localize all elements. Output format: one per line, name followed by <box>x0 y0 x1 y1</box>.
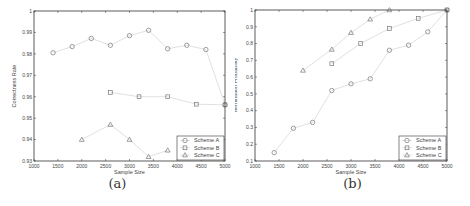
y-tick-label: 0.1 <box>246 158 253 164</box>
legend-label: Scheme C <box>194 152 220 158</box>
y-tick-label: 0.6 <box>246 74 253 80</box>
x-tick-label: 3500 <box>369 163 380 169</box>
x-axis-label: Sample Size <box>114 169 145 175</box>
y-axis-label: Correctness Rate <box>11 65 17 108</box>
series-line <box>303 10 389 70</box>
series-line <box>82 125 168 157</box>
legend: Scheme AScheme BScheme C <box>399 136 446 160</box>
series-scheme-c <box>301 8 392 73</box>
y-tick-label: 0.98 <box>22 51 32 57</box>
x-tick-label: 2500 <box>321 163 332 169</box>
y-tick-label: 0.97 <box>22 72 32 78</box>
termination-probability-chart: 1000150020002500300035004000450050000.10… <box>235 0 470 176</box>
legend-label: Scheme C <box>416 152 442 158</box>
series-line <box>53 30 225 105</box>
x-tick-label: 1500 <box>52 163 63 169</box>
y-tick-label: 0.9 <box>246 24 253 30</box>
y-axis-label: Termination Probability <box>235 57 238 113</box>
caption-a: (a) <box>0 176 235 191</box>
y-tick-label: 0.95 <box>22 115 32 121</box>
series-line <box>274 10 447 153</box>
legend: Scheme AScheme BScheme C <box>177 136 224 160</box>
x-tick-label: 4000 <box>393 163 404 169</box>
y-tick-label: 0.96 <box>22 94 32 100</box>
x-axis-label: Sample Size <box>336 169 367 175</box>
y-tick-label: 0.2 <box>246 141 253 147</box>
chart-panel-a: 1000150020002500300035004000450050000.93… <box>0 0 235 206</box>
series-scheme-a <box>51 28 227 107</box>
caption-b: (b) <box>235 176 470 191</box>
x-tick-label: 4500 <box>196 163 207 169</box>
x-tick-label: 4500 <box>417 163 428 169</box>
series-scheme-c <box>79 122 170 158</box>
y-tick-label: 1 <box>250 7 253 13</box>
x-tick-label: 2000 <box>297 163 308 169</box>
series-line <box>332 10 447 64</box>
y-tick-label: 1 <box>29 8 32 14</box>
x-tick-label: 5000 <box>219 163 230 169</box>
x-tick-label: 1000 <box>28 163 39 169</box>
y-tick-label: 0.4 <box>246 107 253 113</box>
x-tick-label: 4000 <box>172 163 183 169</box>
y-tick-label: 0.8 <box>246 40 253 46</box>
x-tick-label: 1500 <box>273 163 284 169</box>
series-scheme-b <box>330 8 449 65</box>
y-tick-label: 0.5 <box>246 91 253 97</box>
legend-label: Scheme A <box>194 137 219 143</box>
y-tick-label: 0.7 <box>246 57 253 63</box>
x-tick-label: 2000 <box>76 163 87 169</box>
series-scheme-b <box>109 91 227 107</box>
x-tick-label: 2500 <box>100 163 111 169</box>
y-tick-label: 0.99 <box>22 29 32 35</box>
chart-panel-b: 1000150020002500300035004000450050000.10… <box>235 0 470 206</box>
y-tick-label: 0.94 <box>22 136 32 142</box>
triangle-marker-icon <box>165 148 170 152</box>
y-tick-label: 0.3 <box>246 124 253 130</box>
x-tick-label: 3500 <box>148 163 159 169</box>
x-tick-label: 1000 <box>249 163 260 169</box>
legend-label: Scheme B <box>416 145 442 151</box>
legend-label: Scheme A <box>416 137 441 143</box>
legend-label: Scheme B <box>194 145 220 151</box>
correctness-rate-chart: 1000150020002500300035004000450050000.93… <box>0 0 235 176</box>
series-scheme-a <box>272 8 449 155</box>
x-tick-label: 5000 <box>441 163 452 169</box>
y-tick-label: 0.93 <box>22 158 32 164</box>
